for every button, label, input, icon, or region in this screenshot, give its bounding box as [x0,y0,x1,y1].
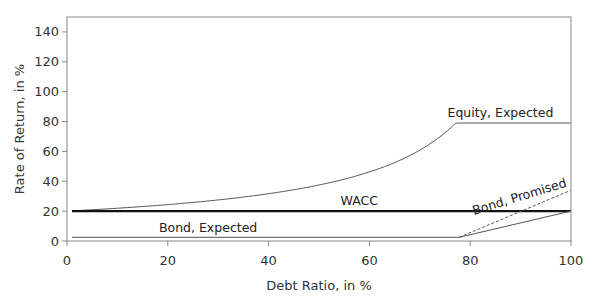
y-tick-label: 20 [42,204,59,219]
y-tick-label: 100 [34,84,59,99]
equity-expected-label: Equity, Expected [448,105,554,120]
y-tick-label: 40 [42,174,59,189]
x-axis-title: Debt Ratio, in % [266,278,371,293]
series-labels: Equity, ExpectedWACCBond, ExpectedBond, … [159,105,568,235]
bond-expected-line [72,211,571,237]
y-axis-title: Rate of Return, in % [12,64,27,194]
x-tick-label: 100 [559,253,584,268]
x-tick-label: 80 [462,253,479,268]
y-tick-label: 60 [42,144,59,159]
bond-expected-label: Bond, Expected [159,220,257,235]
x-tick-label: 40 [260,253,277,268]
x-axis: 020406080100 [63,241,584,268]
x-tick-label: 60 [361,253,378,268]
wacc-label: WACC [341,193,379,208]
y-tick-label: 80 [42,114,59,129]
y-tick-label: 0 [51,234,59,249]
plot-area [72,123,571,237]
chart: 020406080100 020406080100120140 Debt Rat… [0,0,597,306]
y-axis: 020406080100120140 [34,24,67,248]
y-tick-label: 140 [34,24,59,39]
x-tick-label: 0 [63,253,71,268]
y-tick-label: 120 [34,54,59,69]
x-tick-label: 20 [160,253,177,268]
